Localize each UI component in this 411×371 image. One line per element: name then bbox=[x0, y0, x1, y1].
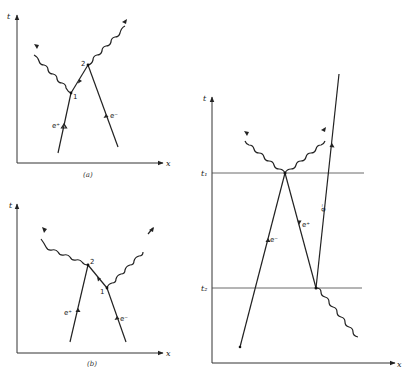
arrow-icon bbox=[122, 19, 127, 24]
arrow-icon bbox=[330, 143, 335, 148]
right-line-label: e⁻ bbox=[319, 203, 328, 212]
x-axis-label: x bbox=[166, 159, 171, 168]
feynman-diagrams-figure: t x e⁺ e⁻ 1 2 (a) t x e⁺ bbox=[0, 0, 411, 371]
photon-wave bbox=[34, 55, 71, 93]
t1-label: t₁ bbox=[201, 169, 207, 178]
t-axis-label: t bbox=[203, 94, 207, 103]
arrow-icon bbox=[321, 127, 326, 132]
arrow-icon bbox=[76, 308, 81, 312]
arrow-icon bbox=[115, 316, 120, 320]
positron-label: e⁺ bbox=[64, 309, 72, 317]
photon-wave-lower bbox=[316, 288, 358, 337]
x-axis-label: x bbox=[166, 349, 171, 358]
t-axis-label: t bbox=[7, 12, 11, 21]
x-axis-label: x bbox=[397, 360, 402, 369]
middle-line-label: e⁺ bbox=[302, 221, 310, 229]
vertex-2-label: 2 bbox=[81, 60, 85, 68]
electron-label: e⁻ bbox=[120, 315, 128, 323]
electron-label: e⁻ bbox=[110, 112, 118, 120]
t2-label: t₂ bbox=[201, 284, 207, 293]
caption-b: (b) bbox=[87, 360, 97, 368]
t-axis-label: t bbox=[9, 201, 13, 210]
panel-b: t x e⁺ e⁻ 2 1 (b) bbox=[9, 201, 171, 368]
caption-a: (a) bbox=[83, 171, 93, 179]
vertex-2 bbox=[87, 64, 90, 67]
electron-line-left bbox=[240, 173, 285, 347]
photon-wave bbox=[41, 239, 88, 265]
electron-line-right bbox=[316, 74, 339, 288]
panel-a: t x e⁺ e⁻ 1 2 (a) bbox=[7, 12, 171, 179]
positron-label: e⁺ bbox=[52, 122, 60, 130]
vertex-1-label: 1 bbox=[100, 288, 104, 296]
vertex-1-label: 1 bbox=[73, 93, 77, 101]
photon-wave-right bbox=[285, 141, 325, 173]
vertex-2-label: 2 bbox=[90, 258, 94, 266]
photon-wave-left bbox=[245, 141, 285, 173]
arrow-icon bbox=[244, 131, 249, 136]
internal-line bbox=[88, 265, 107, 288]
internal-line bbox=[71, 65, 88, 93]
vertex-lower bbox=[315, 287, 318, 290]
photon-wave bbox=[88, 26, 125, 65]
left-line-label: e⁻ bbox=[270, 236, 278, 244]
positron-line-middle bbox=[285, 173, 316, 288]
photon-wave bbox=[107, 252, 143, 288]
panel-c: t x t₁ t₂ e⁻ e⁺ e⁻ bbox=[201, 74, 402, 369]
positron-line bbox=[70, 265, 88, 342]
arrow-icon bbox=[42, 227, 47, 233]
arrow-icon bbox=[34, 44, 39, 49]
electron-line bbox=[88, 65, 118, 147]
vertex-1 bbox=[106, 287, 109, 290]
vertex-1 bbox=[70, 92, 73, 95]
line-endpoint bbox=[239, 346, 242, 349]
vertex-2 bbox=[87, 264, 90, 267]
vertex-upper bbox=[284, 172, 287, 175]
